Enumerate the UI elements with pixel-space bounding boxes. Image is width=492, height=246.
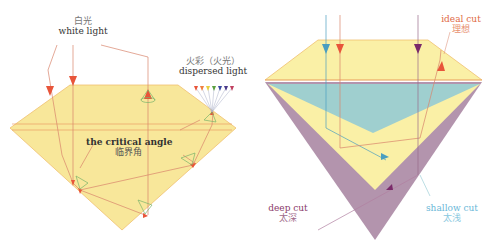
critical-angle-label: the critical angle 临界角 — [86, 137, 170, 157]
ideal-cut-leader — [444, 32, 450, 54]
spectrum-arrows — [194, 86, 234, 91]
ideal-cut-zh: 理想 — [432, 24, 490, 34]
critical-angle-zh: 临界角 — [86, 147, 170, 157]
spectrum-arrow-icon — [206, 86, 210, 91]
left-diamond-body — [10, 85, 236, 230]
spectrum-arrow-icon — [230, 86, 234, 91]
deep-cut-en: deep cut — [262, 203, 314, 213]
deep-cut-label: deep cut 太深 — [262, 203, 314, 223]
dispersed-light-zh: 火彩（火光） — [176, 56, 250, 66]
right-crown — [265, 40, 482, 80]
spectrum-arrow-icon — [218, 86, 222, 91]
arrow-down-icon — [69, 76, 77, 86]
spectrum-arrow-icon — [200, 86, 204, 91]
dispersed-light-en: dispersed light — [176, 66, 250, 76]
spectrum-arrow-icon — [212, 86, 216, 91]
white-light-en: white light — [48, 26, 118, 36]
left-diamond — [10, 85, 236, 230]
dispersed-light-label: 火彩（火光） dispersed light — [176, 56, 250, 76]
diagram-canvas — [0, 0, 492, 246]
shallow-cut-label: shallow cut 太浅 — [420, 203, 484, 223]
arrow-down-icon — [46, 86, 54, 96]
shallow-cut-en: shallow cut — [420, 203, 484, 213]
white-light-label: 白光 white light — [48, 16, 118, 36]
white-light-zh: 白光 — [48, 16, 118, 26]
deep-cut-zh: 太深 — [262, 213, 314, 223]
shallow-cut-zh: 太浅 — [420, 213, 484, 223]
critical-angle-en: the critical angle — [86, 137, 170, 147]
ideal-cut-en: ideal cut — [432, 14, 490, 24]
ideal-cut-label: ideal cut 理想 — [432, 14, 490, 34]
